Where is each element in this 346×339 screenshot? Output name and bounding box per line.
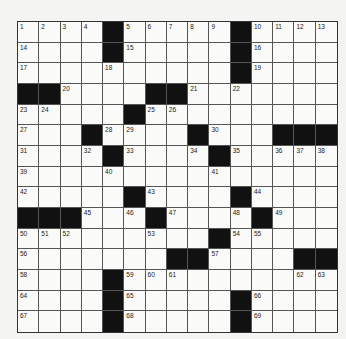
grid-cell[interactable] — [273, 249, 294, 270]
grid-cell[interactable] — [294, 311, 315, 332]
grid-cell[interactable] — [61, 291, 82, 312]
grid-cell[interactable]: 64 — [18, 291, 39, 312]
grid-cell[interactable]: 28 — [103, 125, 124, 146]
grid-cell[interactable]: 20 — [61, 84, 82, 105]
grid-cell[interactable] — [316, 311, 337, 332]
grid-cell[interactable] — [39, 311, 60, 332]
grid-cell[interactable] — [273, 229, 294, 250]
grid-cell[interactable] — [209, 84, 230, 105]
grid-cell[interactable] — [82, 105, 103, 126]
grid-cell[interactable]: 15 — [124, 43, 145, 64]
grid-cell[interactable] — [273, 291, 294, 312]
grid-cell[interactable]: 25 — [146, 105, 167, 126]
grid-cell[interactable] — [39, 270, 60, 291]
grid-cell[interactable]: 16 — [252, 43, 273, 64]
grid-cell[interactable] — [167, 311, 188, 332]
grid-cell[interactable]: 46 — [124, 208, 145, 229]
grid-cell[interactable] — [146, 125, 167, 146]
grid-cell[interactable] — [294, 105, 315, 126]
grid-cell[interactable] — [252, 125, 273, 146]
grid-cell[interactable]: 37 — [294, 146, 315, 167]
grid-cell[interactable] — [82, 229, 103, 250]
grid-cell[interactable] — [167, 43, 188, 64]
grid-cell[interactable] — [124, 167, 145, 188]
grid-cell[interactable]: 21 — [188, 84, 209, 105]
grid-cell[interactable]: 9 — [209, 22, 230, 43]
grid-cell[interactable]: 41 — [209, 167, 230, 188]
grid-cell[interactable]: 29 — [124, 125, 145, 146]
grid-cell[interactable] — [209, 311, 230, 332]
grid-cell[interactable]: 49 — [273, 208, 294, 229]
grid-cell[interactable] — [82, 43, 103, 64]
grid-cell[interactable] — [188, 229, 209, 250]
grid-cell[interactable] — [103, 187, 124, 208]
grid-cell[interactable] — [252, 167, 273, 188]
grid-cell[interactable] — [209, 208, 230, 229]
grid-cell[interactable]: 22 — [231, 84, 252, 105]
grid-cell[interactable] — [188, 187, 209, 208]
grid-cell[interactable]: 50 — [18, 229, 39, 250]
grid-cell[interactable] — [61, 105, 82, 126]
grid-cell[interactable] — [61, 63, 82, 84]
grid-cell[interactable] — [316, 187, 337, 208]
grid-cell[interactable] — [82, 187, 103, 208]
grid-cell[interactable]: 51 — [39, 229, 60, 250]
grid-cell[interactable] — [231, 105, 252, 126]
grid-cell[interactable] — [294, 208, 315, 229]
grid-cell[interactable]: 59 — [124, 270, 145, 291]
grid-cell[interactable] — [82, 311, 103, 332]
grid-cell[interactable]: 18 — [103, 63, 124, 84]
grid-cell[interactable]: 32 — [82, 146, 103, 167]
grid-cell[interactable] — [61, 249, 82, 270]
grid-cell[interactable]: 61 — [167, 270, 188, 291]
grid-cell[interactable] — [146, 311, 167, 332]
grid-cell[interactable] — [82, 291, 103, 312]
grid-cell[interactable]: 65 — [124, 291, 145, 312]
grid-cell[interactable]: 1 — [18, 22, 39, 43]
grid-cell[interactable]: 60 — [146, 270, 167, 291]
grid-cell[interactable] — [273, 105, 294, 126]
grid-cell[interactable] — [294, 187, 315, 208]
grid-cell[interactable] — [273, 187, 294, 208]
grid-cell[interactable]: 27 — [18, 125, 39, 146]
grid-cell[interactable]: 35 — [231, 146, 252, 167]
grid-cell[interactable] — [294, 291, 315, 312]
grid-cell[interactable]: 47 — [167, 208, 188, 229]
grid-cell[interactable]: 31 — [18, 146, 39, 167]
grid-cell[interactable] — [167, 291, 188, 312]
grid-cell[interactable] — [252, 84, 273, 105]
grid-cell[interactable] — [188, 63, 209, 84]
grid-cell[interactable] — [146, 43, 167, 64]
grid-cell[interactable]: 34 — [188, 146, 209, 167]
grid-cell[interactable] — [39, 63, 60, 84]
grid-cell[interactable]: 19 — [252, 63, 273, 84]
grid-cell[interactable]: 12 — [294, 22, 315, 43]
grid-cell[interactable] — [316, 291, 337, 312]
grid-cell[interactable]: 6 — [146, 22, 167, 43]
grid-cell[interactable] — [167, 125, 188, 146]
grid-cell[interactable] — [124, 63, 145, 84]
grid-cell[interactable]: 5 — [124, 22, 145, 43]
grid-cell[interactable] — [188, 291, 209, 312]
grid-cell[interactable] — [167, 63, 188, 84]
grid-cell[interactable] — [316, 105, 337, 126]
grid-cell[interactable] — [82, 167, 103, 188]
grid-cell[interactable] — [188, 270, 209, 291]
grid-cell[interactable] — [316, 63, 337, 84]
grid-cell[interactable] — [252, 105, 273, 126]
grid-cell[interactable] — [209, 63, 230, 84]
grid-cell[interactable]: 43 — [146, 187, 167, 208]
grid-cell[interactable] — [294, 84, 315, 105]
grid-cell[interactable]: 17 — [18, 63, 39, 84]
grid-cell[interactable] — [39, 146, 60, 167]
grid-cell[interactable] — [61, 311, 82, 332]
grid-cell[interactable]: 63 — [316, 270, 337, 291]
grid-cell[interactable] — [146, 291, 167, 312]
grid-cell[interactable]: 33 — [124, 146, 145, 167]
grid-cell[interactable]: 24 — [39, 105, 60, 126]
grid-cell[interactable]: 58 — [18, 270, 39, 291]
grid-cell[interactable] — [61, 167, 82, 188]
grid-cell[interactable] — [167, 229, 188, 250]
grid-cell[interactable]: 11 — [273, 22, 294, 43]
grid-cell[interactable] — [294, 167, 315, 188]
